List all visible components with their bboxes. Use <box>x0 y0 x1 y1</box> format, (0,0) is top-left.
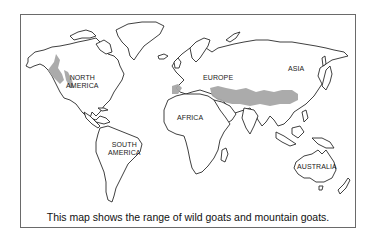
label-south-america: SOUTH AMERICA <box>108 141 141 157</box>
label-asia: ASIA <box>288 65 304 73</box>
novaya-zemlya <box>226 32 240 42</box>
greenland-landmass <box>116 22 164 60</box>
borneo <box>292 126 304 138</box>
label-australia: AUSTRALIA <box>297 163 337 171</box>
label-africa: AFRICA <box>177 114 203 122</box>
sakhalin <box>322 56 326 66</box>
arctic-islands <box>70 30 96 40</box>
tasmania <box>319 186 323 190</box>
madagascar <box>221 148 228 162</box>
japan <box>322 66 332 90</box>
label-north-america: NORTH AMERICA <box>66 74 99 90</box>
label-south-america-line1: SOUTH <box>108 141 141 149</box>
map-caption: This map shows the range of wild goats a… <box>20 211 356 223</box>
label-europe: EUROPE <box>203 74 233 82</box>
label-south-america-line2: AMERICA <box>108 149 141 157</box>
iceland <box>158 54 168 59</box>
new-guinea <box>312 138 334 148</box>
indian-subcontinent <box>242 108 258 134</box>
label-north-america-line1: NORTH <box>66 74 99 82</box>
label-north-america-line2: AMERICA <box>66 82 99 90</box>
new-zealand <box>338 178 350 194</box>
south-america-landmass <box>96 126 142 202</box>
world-map <box>0 0 374 246</box>
philippines <box>302 110 308 122</box>
